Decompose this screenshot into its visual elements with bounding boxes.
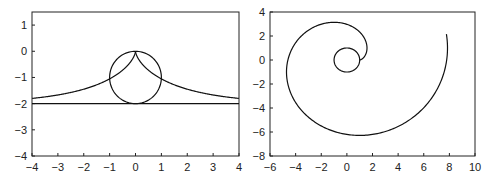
tractrix-left-curve (32, 51, 135, 98)
x-tick-label: −2 (315, 161, 328, 173)
y-tick-label: 0 (21, 45, 27, 57)
x-tick-label: 1 (158, 161, 164, 173)
y-tick-label: 1 (21, 19, 27, 31)
y-tick-label: −8 (252, 150, 265, 162)
y-tick-label: 2 (259, 30, 265, 42)
x-tick-label: −4 (289, 161, 302, 173)
right-plot-curves (286, 22, 447, 135)
circle-curve (110, 51, 162, 103)
right-plot-ticks: −6−4−20246810420−2−4−6−8 (252, 6, 481, 173)
x-tick-label: −2 (77, 161, 90, 173)
x-tick-label: 0 (344, 161, 350, 173)
x-tick-label: −3 (52, 161, 65, 173)
x-tick-label: 2 (184, 161, 190, 173)
y-tick-label: −3 (14, 124, 27, 136)
y-tick-label: 4 (259, 6, 265, 18)
y-tick-label: −4 (252, 102, 265, 114)
y-tick-label: −2 (14, 98, 27, 110)
left-plot-frame (32, 12, 239, 156)
x-tick-label: 8 (446, 161, 452, 173)
x-tick-label: 10 (469, 161, 481, 173)
y-tick-label: −6 (252, 126, 265, 138)
x-tick-label: 3 (210, 161, 216, 173)
left-plot-curves (32, 51, 239, 103)
left-plot: −4−3−2−10123410−1−2−3−4 (14, 12, 242, 173)
tractrix-right-curve (136, 51, 239, 98)
chart-figure: −4−3−2−10123410−1−2−3−4 −6−4−20246810420… (0, 0, 493, 181)
y-tick-label: −1 (14, 71, 27, 83)
y-tick-label: −2 (252, 78, 265, 90)
x-tick-label: −6 (264, 161, 277, 173)
x-tick-label: 4 (236, 161, 242, 173)
x-tick-label: 6 (421, 161, 427, 173)
x-tick-label: −1 (103, 161, 116, 173)
y-tick-label: −4 (14, 150, 27, 162)
involute-curve (286, 22, 447, 135)
y-tick-label: 0 (259, 54, 265, 66)
right-plot: −6−4−20246810420−2−4−6−8 (252, 6, 481, 173)
x-tick-label: 4 (395, 161, 401, 173)
unit-circle-curve (334, 48, 360, 72)
x-tick-label: 2 (369, 161, 375, 173)
x-tick-label: −4 (26, 161, 39, 173)
x-tick-label: 0 (132, 161, 138, 173)
